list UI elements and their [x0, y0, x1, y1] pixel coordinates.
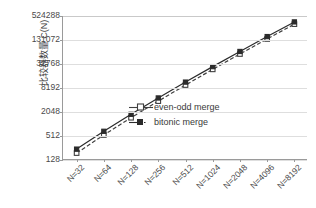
- gridline: [63, 136, 307, 137]
- y-tick-mark: [60, 16, 63, 17]
- legend-label-bitonic-merge: bitonic merge: [154, 117, 208, 128]
- data-point-marker: [102, 129, 106, 133]
- x-tick-mark: [104, 159, 105, 162]
- legend-label-even-odd-merge: even-odd merge: [154, 102, 220, 113]
- data-point-marker: [183, 80, 187, 84]
- x-tick-mark: [131, 159, 132, 162]
- gridline: [63, 88, 307, 89]
- y-tick-mark: [60, 112, 63, 113]
- x-tick-mark: [186, 159, 187, 162]
- x-tick-mark: [267, 159, 268, 162]
- y-tick-mark: [60, 40, 63, 41]
- y-tick-mark: [60, 160, 63, 161]
- y-tick-mark: [60, 136, 63, 137]
- y-tick-mark: [60, 88, 63, 89]
- x-tick-mark: [240, 159, 241, 162]
- chart-legend: even-odd merge bitonic merge: [128, 100, 240, 130]
- y-tick-label: 32768: [2, 59, 60, 68]
- y-tick-label: 524288: [2, 11, 60, 20]
- data-point-marker: [238, 49, 242, 53]
- y-tick-label: 512: [2, 131, 60, 140]
- y-tick-mark: [60, 64, 63, 65]
- gridline: [63, 16, 307, 17]
- y-tick-label: 8192: [2, 83, 60, 92]
- legend-marker-filled-square-icon: [128, 117, 154, 128]
- legend-marker-open-square-icon: [128, 102, 154, 113]
- x-axis-tick-labels: N=32N=64N=128N=256N=512N=1024N=2048N=409…: [0, 163, 316, 208]
- data-point-marker: [292, 20, 296, 24]
- y-tick-label: 131072: [2, 35, 60, 44]
- data-point-marker: [75, 147, 79, 151]
- x-tick-mark: [213, 159, 214, 162]
- y-tick-label: 2048: [2, 107, 60, 116]
- legend-item-even-odd-merge: even-odd merge: [128, 100, 240, 115]
- legend-item-bitonic-merge: bitonic merge: [128, 115, 240, 130]
- chart-container: 比较器数量 C(N) 12851220488192327681310725242…: [0, 0, 316, 208]
- plot-area: [62, 16, 307, 160]
- data-point-marker: [265, 34, 269, 38]
- x-tick-mark: [77, 159, 78, 162]
- data-point-marker: [211, 65, 215, 69]
- gridline: [63, 64, 307, 65]
- gridline: [63, 40, 307, 41]
